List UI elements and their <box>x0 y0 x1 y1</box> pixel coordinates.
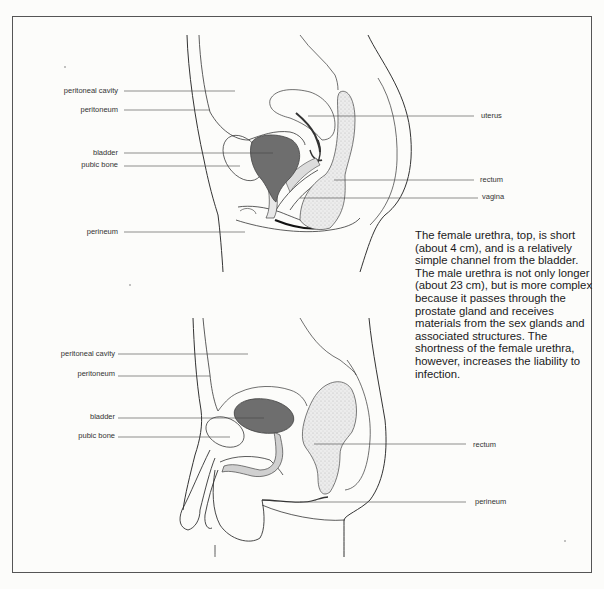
male-leader-lines <box>118 354 466 502</box>
label-male-perineum: perineum <box>475 497 506 506</box>
label-male-pubic-bone: pubic bone <box>78 431 115 440</box>
label-male-rectum: rectum <box>473 440 496 449</box>
female-bladder-shape <box>250 135 299 202</box>
label-female-uterus: uterus <box>481 111 502 120</box>
label-male-bladder: bladder <box>90 412 115 421</box>
label-male-peritoneal-cavity: peritoneal cavity <box>61 349 115 358</box>
male-rectum-shape <box>302 382 356 494</box>
label-male-peritoneum: peritoneum <box>77 369 115 378</box>
label-female-peritoneal-cavity: peritoneal cavity <box>64 86 118 95</box>
label-female-rectum: rectum <box>480 175 503 184</box>
label-female-vagina: vagina <box>482 192 504 201</box>
female-rectum-shape <box>300 91 355 229</box>
label-female-pubic-bone: pubic bone <box>81 160 118 169</box>
label-female-peritoneum: peritoneum <box>80 105 118 114</box>
label-female-perineum: perineum <box>87 227 118 236</box>
male-bladder-shape <box>232 395 296 437</box>
label-female-bladder: bladder <box>93 148 118 157</box>
figure-caption: The female urethra, top, is short (about… <box>415 229 595 380</box>
caption-text: The female urethra, top, is short (about… <box>415 229 595 380</box>
